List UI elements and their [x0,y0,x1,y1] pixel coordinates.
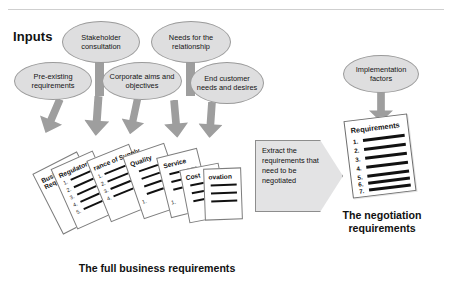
ellipse-needs-for-the-relationship[interactable]: Needs for the relationship [151,21,231,63]
card-item-number: 2. [100,181,106,188]
ellipse-end-customer-needs-and-desires[interactable]: End customer needs and desires [190,62,264,104]
callout-text: Extract the requirements that need to be… [262,146,320,186]
caption-negotiation-requirements: The negotiation requirements [318,209,446,234]
ellipse-label: Stakeholder consultation [66,33,136,52]
card-item-number: 5. [76,209,82,216]
document-negotiation-requirements[interactable]: Requirements 1. 2. 3. 4. 5. 6. 7. [343,113,416,198]
card-item-number: 1. [171,200,177,206]
ellipse-label: Corporate aims and objectives [106,72,178,91]
card-lines [204,168,242,219]
ellipse-corporate-aims-and-objectives[interactable]: Corporate aims and objectives [102,62,182,100]
arrow-to-cards-2 [83,95,111,137]
document-lines: 1. 2. 3. 4. 5. 6. 7. [345,115,416,198]
card-item-number: 1. [97,173,103,180]
card-item-number: 3. [103,188,109,195]
card-item-number: 1. [142,199,148,206]
ellipse-label: Pre-existing requirements [18,72,88,91]
arrow-to-cards-5 [198,101,224,139]
diagram-canvas: Inputs Stakeholder consultation Needs fo… [0,0,452,307]
document-item-number: 7. [359,188,365,194]
arrow-to-cards-4 [162,99,189,139]
ellipse-label: Implementation factors [347,65,415,84]
document-item-number: 3. [355,156,361,162]
arrow-to-cards-1 [34,94,71,137]
ellipse-label: Needs for the relationship [155,33,227,52]
inputs-label: Inputs [13,29,53,44]
ellipse-implementation-factors[interactable]: Implementation factors [343,55,419,93]
ellipse-label: End customer needs and desires [194,74,260,93]
ellipse-pre-existing-requirements[interactable]: Pre-existing requirements [14,62,92,100]
document-item-number: 2. [354,147,360,153]
top-divider-rule [8,9,444,10]
arrow-to-cards-3 [119,97,149,137]
ellipse-stakeholder-consultation[interactable]: Stakeholder consultation [62,21,140,63]
document-item-number: 1. [353,139,359,145]
card-item-number: 4. [106,195,112,202]
caption-full-business-requirements: The full business requirements [62,262,252,275]
card-innovation[interactable]: ovation [203,167,243,220]
document-item-number: 4. [356,165,362,171]
